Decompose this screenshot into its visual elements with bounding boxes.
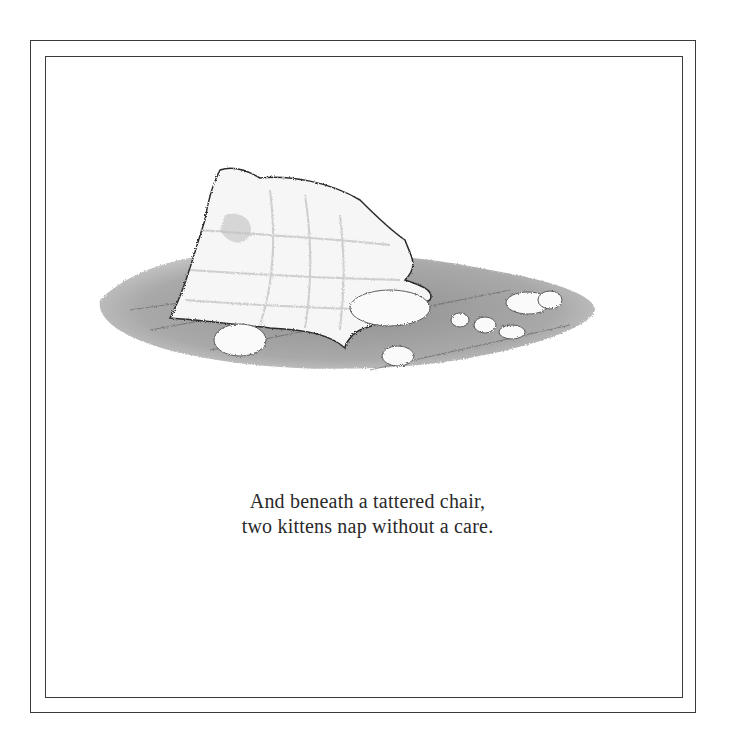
verse-text: And beneath a tattered chair, two kitten… [0,489,735,539]
pillow-illustration [90,160,610,390]
verse-line-1: And beneath a tattered chair, [0,489,735,514]
verse-line-2: two kittens nap without a care. [0,514,735,539]
